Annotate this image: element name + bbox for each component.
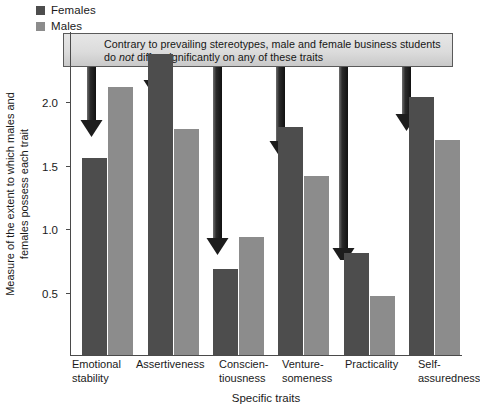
legend-swatch-females xyxy=(36,6,45,15)
bar-males-assertiveness xyxy=(174,129,199,355)
x-tick-label-self-assuredness: Self- assuredness xyxy=(418,358,480,385)
y-tick-label-1-5: 1.5 xyxy=(42,161,58,173)
bar-males-emotional-stability xyxy=(108,87,133,355)
chart-legend: Females Males xyxy=(36,3,156,35)
bar-females-practicality xyxy=(344,253,369,355)
x-tick-label-conscientiousness: Conscien- tiousness xyxy=(219,358,269,385)
x-tick-label-assertiveness: Assertiveness xyxy=(136,358,204,372)
x-tick-label-practicality: Practicality xyxy=(345,358,398,372)
y-axis-title-line-1: Measure of the extent to which males and xyxy=(4,92,16,296)
x-tick-label-venturesomeness: Venture- someness xyxy=(282,358,332,385)
x-tick-label-emotional-stability: Emotional stability xyxy=(72,358,121,385)
y-tick-label-0-5: 0.5 xyxy=(42,288,58,300)
bar-females-conscientiousness xyxy=(213,269,238,355)
legend-item-females: Females xyxy=(36,3,156,18)
y-tick-label-1-0: 1.0 xyxy=(42,224,58,236)
legend-label-males: Males xyxy=(51,21,82,33)
bar-females-assertiveness xyxy=(148,54,173,355)
bar-females-venturesomeness xyxy=(278,127,303,355)
plot-area: Measure of the extent to which males and… xyxy=(70,32,462,356)
y-axis-title-line-2: females possess each trait xyxy=(17,128,29,258)
legend-label-females: Females xyxy=(51,5,96,17)
bar-males-conscientiousness xyxy=(239,237,264,355)
y-axis-title: Measure of the extent to which males and… xyxy=(4,44,31,344)
bar-males-venturesomeness xyxy=(304,176,329,355)
x-axis-tick-labels: Emotional stability Assertiveness Consci… xyxy=(70,358,462,392)
bar-females-emotional-stability xyxy=(82,158,107,355)
x-axis-title: Specific traits xyxy=(70,392,462,404)
legend-swatch-males xyxy=(36,22,45,31)
y-tick-label-2-0: 2.0 xyxy=(42,97,58,109)
bar-males-practicality xyxy=(370,296,395,355)
bar-males-self-assuredness xyxy=(435,140,460,355)
bar-females-self-assuredness xyxy=(409,97,434,355)
bars-layer xyxy=(71,32,462,355)
